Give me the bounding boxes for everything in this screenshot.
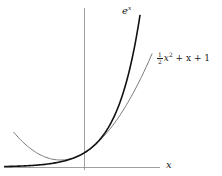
quad-rest: + x + 1 bbox=[173, 53, 210, 63]
chart-area: ex 1 2 x2 + x + 1 x bbox=[0, 0, 222, 176]
exp-label-sup: x bbox=[128, 4, 131, 11]
plot-canvas bbox=[0, 0, 222, 176]
fraction-denominator: 2 bbox=[157, 59, 163, 65]
quadratic-curve bbox=[14, 54, 153, 160]
x-axis-label-text: x bbox=[166, 159, 172, 170]
exp-label: ex bbox=[122, 4, 131, 16]
one-half-fraction: 1 2 bbox=[157, 52, 163, 65]
quadratic-label: 1 2 x2 + x + 1 bbox=[157, 51, 210, 65]
x-axis-label: x bbox=[166, 159, 172, 170]
